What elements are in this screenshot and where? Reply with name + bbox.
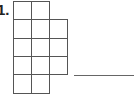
grid-square [31, 56, 50, 76]
grid-square [49, 19, 68, 39]
grid-square [49, 38, 68, 58]
grid-square [31, 1, 50, 21]
grid-square [49, 56, 68, 76]
grid-square [13, 1, 32, 21]
grid-square [31, 38, 50, 58]
grid-square [13, 38, 32, 58]
grid-square [13, 74, 32, 94]
grid-square [13, 56, 32, 76]
grid-square [31, 19, 50, 39]
grid-square [31, 74, 50, 94]
problem-number: 1. [0, 2, 10, 17]
grid-square [13, 19, 32, 39]
answer-blank-line[interactable] [74, 75, 134, 76]
